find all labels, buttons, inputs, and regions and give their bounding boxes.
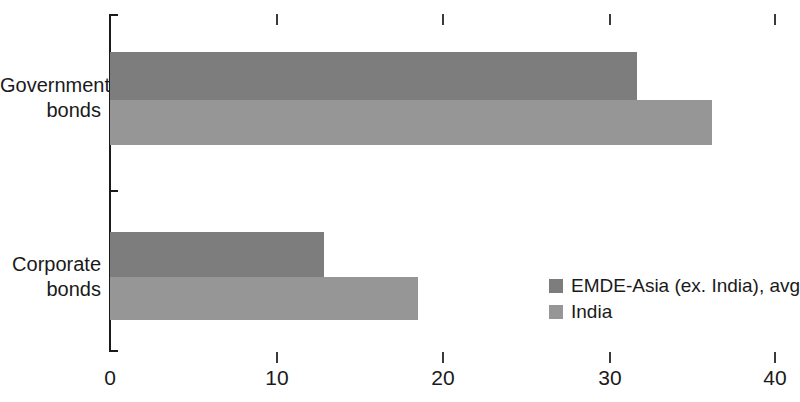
top-axis-tick-30 [609,14,611,25]
x-axis-label-0: 0 [104,366,116,390]
x-axis-tick-40 [774,352,776,363]
x-axis-tick-20 [442,352,444,363]
top-axis-tick-40 [774,14,776,25]
legend: EMDE-Asia (ex. India), avg India [549,274,800,326]
legend-label: EMDE-Asia (ex. India), avg [571,275,800,297]
bar-government-bonds-india [110,100,712,145]
bar-corporate-bonds-india [110,277,418,320]
category-label-corporate-bonds: Corporate bonds [0,252,101,302]
x-axis-tick-10 [276,352,278,363]
legend-item-india: India [549,300,800,324]
y-axis-top-cap [109,14,118,16]
y-axis-bottom-cap [109,350,118,352]
category-label-line-1: Corporate [0,252,101,277]
top-axis-tick-10 [276,14,278,25]
legend-swatch-icon [549,305,563,319]
category-label-line-2: bonds [0,98,101,123]
x-axis-label-40: 40 [763,366,786,390]
x-axis-tick-30 [609,352,611,363]
legend-label: India [571,301,612,323]
legend-swatch-icon [549,279,563,293]
category-label-line-2: bonds [0,277,101,302]
y-axis-group-separator-tick [109,190,118,192]
legend-item-emde-asia: EMDE-Asia (ex. India), avg [549,274,800,298]
x-axis-label-30: 30 [598,366,621,390]
category-label-government-bonds: Government bonds [0,73,101,123]
category-label-line-1: Government [0,73,101,98]
x-axis-label-10: 10 [265,366,288,390]
x-axis-label-20: 20 [431,366,454,390]
top-axis-tick-20 [442,14,444,25]
bar-corporate-bonds-emde-asia [110,232,324,277]
bar-government-bonds-emde-asia [110,52,637,100]
